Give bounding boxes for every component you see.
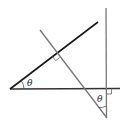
angle-arc-left xyxy=(21,81,24,90)
geometry-diagram: θ θ xyxy=(0,0,132,123)
base-line xyxy=(10,89,120,90)
right-angle-mark-upper xyxy=(53,57,60,61)
theta-label-left: θ xyxy=(27,78,33,88)
vertical-line xyxy=(106,8,107,118)
right-angle-mark-lower xyxy=(107,89,112,95)
transversal-line xyxy=(40,30,107,118)
rising-line xyxy=(10,22,98,89)
angle-arc-bottom xyxy=(99,106,107,108)
theta-label-bottom: θ xyxy=(97,94,103,104)
